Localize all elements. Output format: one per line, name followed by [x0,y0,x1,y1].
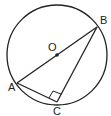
segment-bc [57,27,97,102]
label-c: C [53,105,61,116]
label-b: B [100,14,107,26]
label-o: O [48,41,57,53]
center-point-o [55,53,59,57]
label-a: A [8,81,16,93]
geometry-diagram: O B A C [0,0,111,116]
